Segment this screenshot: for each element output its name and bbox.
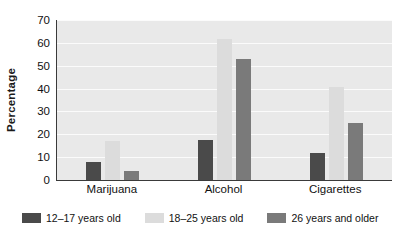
bar bbox=[329, 87, 344, 180]
bar bbox=[124, 171, 139, 180]
x-axis-tick-label: Cigarettes bbox=[279, 183, 391, 203]
x-axis-tick-labels: MarijuanaAlcoholCigarettes bbox=[56, 183, 391, 203]
y-axis-tick-labels: 010203040506070 bbox=[20, 20, 54, 180]
bar-group bbox=[169, 20, 281, 180]
legend: 12–17 years old18–25 years old26 years a… bbox=[22, 209, 392, 227]
bar bbox=[86, 162, 101, 180]
legend-label: 18–25 years old bbox=[169, 212, 244, 224]
bar bbox=[236, 59, 251, 180]
bar-groups bbox=[57, 20, 392, 180]
bar-group bbox=[280, 20, 392, 180]
y-axis-tick-label: 0 bbox=[44, 174, 50, 186]
legend-item: 12–17 years old bbox=[22, 212, 121, 224]
legend-color-swatch bbox=[145, 213, 164, 223]
bar bbox=[217, 39, 232, 180]
bar-group bbox=[57, 20, 169, 180]
legend-label: 26 years and older bbox=[291, 212, 378, 224]
x-axis-tick-label: Alcohol bbox=[168, 183, 280, 203]
legend-item: 26 years and older bbox=[267, 212, 378, 224]
bar-chart-figure: Percentage 010203040506070 MarijuanaAlco… bbox=[0, 0, 407, 239]
y-axis-tick-label: 60 bbox=[37, 37, 50, 49]
legend-item: 18–25 years old bbox=[145, 212, 244, 224]
legend-color-swatch bbox=[22, 213, 41, 223]
x-axis-tick-label: Marijuana bbox=[56, 183, 168, 203]
y-axis-tick-label: 30 bbox=[37, 105, 50, 117]
legend-label: 12–17 years old bbox=[46, 212, 121, 224]
bar bbox=[198, 140, 213, 180]
y-axis-tick-label: 20 bbox=[37, 128, 50, 140]
legend-color-swatch bbox=[267, 213, 286, 223]
bar bbox=[348, 123, 363, 180]
bar bbox=[105, 141, 120, 180]
bar bbox=[310, 153, 325, 180]
y-axis-title-text: Percentage bbox=[5, 68, 17, 132]
plot-area bbox=[56, 20, 392, 181]
y-axis-tick-label: 50 bbox=[37, 60, 50, 72]
y-axis-tick-label: 40 bbox=[37, 83, 50, 95]
y-axis-tick-label: 10 bbox=[37, 151, 50, 163]
y-axis-tick-label: 70 bbox=[37, 14, 50, 26]
y-axis-title: Percentage bbox=[2, 20, 20, 180]
